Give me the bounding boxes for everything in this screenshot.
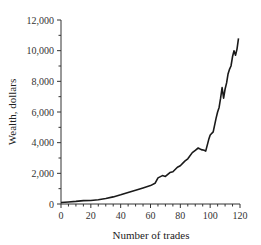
x-tick-label: 0 [59, 210, 64, 221]
wealth-series-line [61, 38, 239, 202]
y-tick-label: 10,000 [27, 45, 55, 56]
y-tick-label: 6,000 [32, 107, 55, 118]
wealth-line-chart: 02,0004,0006,0008,00010,00012,000 020406… [0, 0, 261, 245]
x-tick-label: 20 [86, 210, 96, 221]
y-tick-label: 8,000 [32, 76, 55, 87]
x-axis-title: Number of trades [113, 229, 190, 241]
x-tick-label: 120 [233, 210, 248, 221]
plot-area [61, 38, 239, 202]
x-tick-label: 100 [203, 210, 218, 221]
x-tick-label: 40 [116, 210, 126, 221]
y-axis-title: Wealth, dollars [6, 79, 18, 145]
x-axis: 020406080100120 [59, 204, 248, 221]
x-tick-label: 60 [146, 210, 156, 221]
y-tick-label: 12,000 [27, 15, 55, 26]
y-tick-label: 4,000 [32, 137, 55, 148]
y-tick-label: 0 [49, 199, 54, 210]
y-axis: 02,0004,0006,0008,00010,00012,000 [27, 15, 62, 210]
y-tick-label: 2,000 [32, 168, 55, 179]
x-tick-label: 80 [175, 210, 185, 221]
